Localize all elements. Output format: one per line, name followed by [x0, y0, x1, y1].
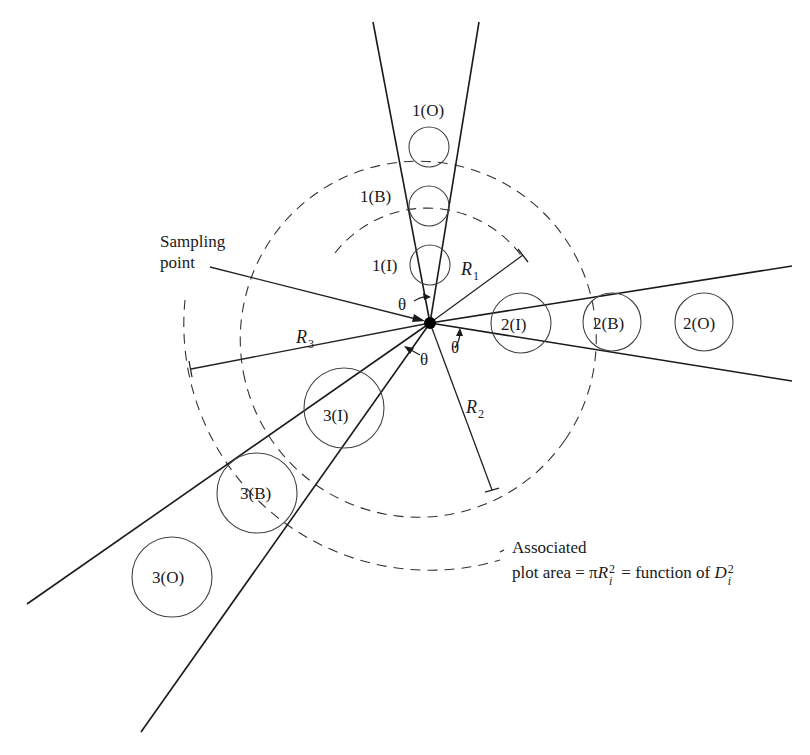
annotation-r-supsub: 2i: [608, 562, 617, 586]
tree-label-1-B: 1(B): [360, 187, 391, 206]
dashed-arc-r1: [335, 208, 523, 258]
sampling-point-label-line2: point: [160, 253, 195, 272]
annotation-associated-text: Associated: [512, 538, 587, 557]
tree-label-2-B: 2(B): [593, 314, 624, 333]
annotation-r-sub: i: [609, 571, 612, 591]
theta-label-3: θ: [420, 350, 428, 369]
theta-arrow-1: [414, 293, 431, 301]
annotation-line2: plot area = πR2i = function of D2i: [512, 562, 736, 586]
point-sampling-diagram: 1(O) 1(B) 1(I) 2(I) 2(B) 2(O) 3(I) 3(B) …: [0, 0, 810, 755]
annotation-r-symbol: R: [598, 563, 608, 582]
annotation-d-supsub: 2i: [727, 562, 736, 586]
tree-label-3-B: 3(B): [240, 484, 271, 503]
annotation-line1: Associated: [512, 538, 587, 558]
tree-label-3-O: 3(O): [152, 568, 184, 587]
annotation-leader: [500, 550, 504, 552]
dashed-circle-r2-bottom: [245, 380, 565, 517]
tree-label-1-O: 1(O): [412, 101, 444, 120]
tree-circle-1-B: [409, 186, 449, 226]
annotation-plot-area-text: plot area = π: [512, 563, 598, 582]
annotation-function-text: = function of: [617, 563, 714, 582]
tree-circle-1-I: [410, 245, 450, 285]
sampling-point-pointer: [210, 267, 425, 322]
radius-r2: [430, 323, 499, 492]
sampling-point-label-line1: Sampling: [160, 232, 226, 251]
sector3-lower-line: [141, 323, 430, 732]
sampling-point-dot: [424, 317, 436, 329]
dashed-circle-r2: [240, 161, 596, 440]
tree-circle-1-O: [409, 127, 449, 167]
sector1-left-line: [373, 22, 430, 323]
tree-label-1-I: 1(I): [372, 256, 397, 275]
theta-label-1: θ: [398, 295, 406, 314]
sector3-upper-line: [27, 323, 430, 604]
radius-r1: [430, 249, 528, 323]
annotation-d-symbol: D: [714, 563, 726, 582]
plot-radius-arcs: [184, 161, 596, 570]
tree-label-2-I: 2(I): [501, 315, 526, 334]
radius-label-r1: R1: [460, 259, 479, 283]
annotation-d-sub: i: [728, 571, 731, 591]
theta-label-2: θ: [451, 338, 459, 357]
tree-label-3-I: 3(I): [323, 406, 348, 425]
tree-label-2-O: 2(O): [683, 314, 715, 333]
radius-label-r2: R2: [465, 397, 484, 421]
